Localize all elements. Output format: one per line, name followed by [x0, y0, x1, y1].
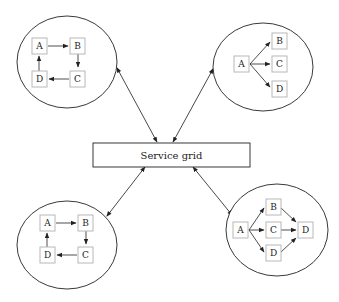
node-a-label: A	[236, 225, 244, 235]
service-grid: Service grid	[93, 143, 250, 167]
cluster-ellipse	[213, 23, 313, 111]
node-d-label: D	[276, 84, 283, 94]
service-grid-label: Service grid	[141, 150, 203, 161]
link-top-left	[117, 68, 157, 142]
links	[107, 68, 232, 216]
node-d-label: D	[44, 250, 51, 260]
node-a-label: A	[43, 218, 51, 228]
link-bottom-left	[107, 167, 145, 216]
link-bottom-right	[193, 167, 232, 215]
node-d-label: D	[36, 74, 43, 84]
node-c-label: C	[276, 59, 283, 69]
cluster-ellipse	[17, 16, 117, 108]
node-a-label: A	[237, 59, 245, 69]
cluster-bottom-right: A B C D D	[226, 184, 328, 276]
service-grid-diagram: Service grid A B C D A B C D	[0, 0, 339, 302]
node-b-label: B	[270, 202, 277, 212]
node-b-label: B	[276, 36, 283, 46]
node-d-sink-label: D	[302, 225, 309, 235]
link-top-right	[173, 69, 213, 142]
node-d-lower-label: D	[270, 248, 277, 258]
node-c-label: C	[270, 225, 277, 235]
node-b-label: B	[74, 41, 81, 51]
cluster-ellipse	[17, 201, 117, 289]
node-a-label: A	[35, 41, 43, 51]
cluster-bottom-left: A B C D	[17, 201, 117, 289]
cluster-top-right: A B C D	[213, 23, 313, 111]
node-c-label: C	[82, 250, 89, 260]
node-c-label: C	[74, 74, 81, 84]
cluster-top-left: A B C D	[17, 16, 117, 108]
node-b-label: B	[82, 218, 89, 228]
